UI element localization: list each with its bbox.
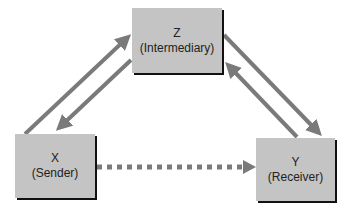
arrowhead-x-to-y: [243, 160, 256, 174]
node-x-letter: X: [51, 151, 59, 166]
arrow-x-to-z: [25, 38, 127, 134]
node-sender: X (Sender): [15, 134, 95, 198]
node-z-letter: Z: [173, 26, 180, 41]
node-x-role: (Sender): [32, 166, 79, 181]
arrow-z-to-y: [224, 35, 318, 132]
node-receiver: Y (Receiver): [256, 138, 335, 201]
node-intermediary: Z (Intermediary): [132, 8, 222, 73]
node-y-letter: Y: [291, 155, 299, 170]
node-z-role: (Intermediary): [140, 41, 215, 56]
node-y-role: (Receiver): [268, 170, 323, 185]
